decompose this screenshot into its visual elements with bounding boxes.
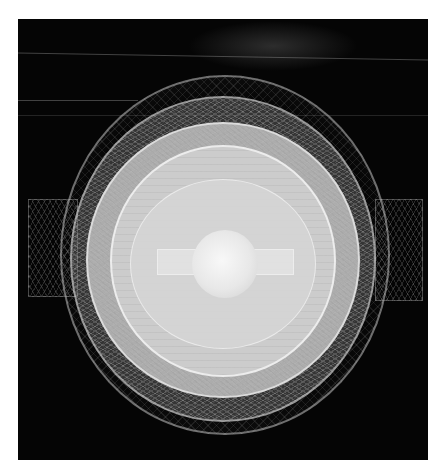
top-glow [188,21,358,71]
image-frame [18,19,428,460]
scan-line [18,100,138,101]
core-sphere [192,230,258,298]
